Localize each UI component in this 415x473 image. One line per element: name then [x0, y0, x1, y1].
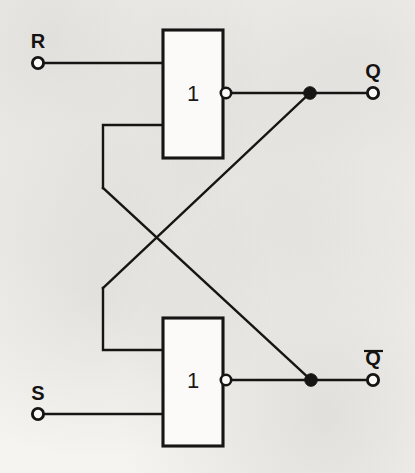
terminal-Q-node[interactable]: [367, 87, 378, 98]
circuit-svg: 1 1 R S Q Q: [0, 0, 415, 473]
gate-bottom[interactable]: 1: [163, 318, 231, 446]
junction-layer: [304, 87, 318, 387]
junction-Q: [304, 87, 317, 100]
terminal-Qbar[interactable]: Q: [364, 347, 383, 386]
terminal-R[interactable]: R: [31, 30, 46, 69]
junction-Qbar: [305, 374, 318, 387]
terminal-Qbar-node[interactable]: [367, 374, 378, 385]
gate-bottom-inversion-bubble: [221, 375, 231, 385]
terminal-R-node[interactable]: [32, 57, 43, 68]
terminal-R-label: R: [31, 30, 46, 52]
terminal-Q-label: Q: [365, 60, 381, 82]
terminal-Q[interactable]: Q: [365, 60, 381, 99]
gate-top[interactable]: 1: [163, 30, 231, 158]
circuit-diagram: 1 1 R S Q Q: [0, 0, 415, 473]
terminal-S[interactable]: S: [31, 382, 44, 420]
gate-top-label: 1: [187, 81, 199, 106]
gate-bottom-label: 1: [187, 368, 199, 393]
terminal-S-node[interactable]: [32, 408, 43, 419]
wire-feedback-top-input: [103, 125, 163, 188]
wire-feedback-bottom-input: [103, 288, 163, 350]
terminal-S-label: S: [31, 382, 44, 404]
gate-top-inversion-bubble: [221, 88, 231, 98]
